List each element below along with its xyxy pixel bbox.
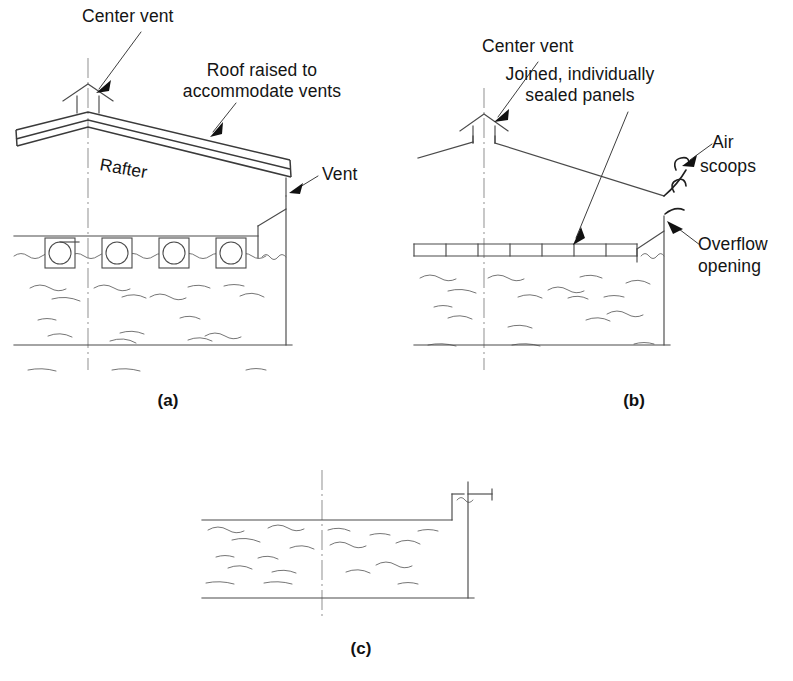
label-roof-raised-line2: accommodate vents xyxy=(183,81,341,101)
lagoon-texture xyxy=(28,285,266,372)
membrane-roof xyxy=(418,136,664,196)
label-air-scoops-line1: Air xyxy=(712,132,734,152)
label-center-vent-a: Center vent xyxy=(82,6,174,26)
break-squiggle xyxy=(262,255,286,260)
label-vent-a: Vent xyxy=(322,164,357,184)
callout-vent-a xyxy=(289,176,318,194)
diagram-canvas: Center vent Roof raised to accommodate v… xyxy=(0,0,793,681)
lagoon-texture xyxy=(420,275,654,346)
float-ball-icon xyxy=(45,238,246,268)
panel-letter-b: (b) xyxy=(623,391,645,410)
sealed-panel-cover xyxy=(414,244,637,256)
floating-cover xyxy=(202,494,464,520)
panel-a: Center vent Roof raised to accommodate v… xyxy=(14,6,357,410)
overflow-corbel xyxy=(637,231,664,249)
callout-overflow-opening xyxy=(667,221,700,245)
panel-c: (c) xyxy=(202,470,492,658)
callout-joined-panels xyxy=(573,112,628,245)
break-squiggle xyxy=(641,254,664,259)
callout-center-vent-a xyxy=(96,32,141,93)
panel-letter-a: (a) xyxy=(158,391,179,410)
label-center-vent-b: Center vent xyxy=(482,36,574,56)
label-roof-raised-line1: Roof raised to xyxy=(207,60,317,80)
bank-wall-right xyxy=(468,482,492,598)
membrane-curve xyxy=(664,170,686,196)
label-overflow-line1: Overflow xyxy=(698,234,768,254)
label-joined-panels-line2: sealed panels xyxy=(525,85,634,105)
panel-letter-c: (c) xyxy=(351,639,372,658)
callout-roof-raised xyxy=(210,103,236,137)
figure-root: Center vent Roof raised to accommodate v… xyxy=(0,0,793,681)
label-joined-panels-line1: Joined, individually xyxy=(506,64,655,84)
label-air-scoops-line2: scoops xyxy=(700,156,756,176)
panel-b: Center vent Joined, individually sealed … xyxy=(414,36,768,410)
label-overflow-line2: opening xyxy=(698,256,761,276)
roof-assembly xyxy=(16,112,291,177)
break-squiggle xyxy=(457,498,473,503)
label-rafter: Rafter xyxy=(98,154,149,182)
corbel xyxy=(258,209,286,226)
